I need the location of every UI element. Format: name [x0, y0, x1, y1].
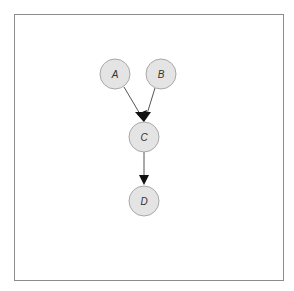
node-c-label: C — [140, 132, 148, 143]
edge-b-to-c — [147, 88, 155, 114]
node-a[interactable]: A — [100, 59, 130, 89]
graph-canvas: A B C D — [0, 0, 294, 291]
arrowhead-into-d-icon — [139, 175, 149, 185]
node-b[interactable]: B — [146, 59, 176, 89]
node-d-label: D — [140, 196, 147, 207]
node-d[interactable]: D — [129, 186, 159, 216]
edge-a-to-c — [124, 87, 140, 114]
node-b-label: B — [158, 69, 165, 80]
node-c[interactable]: C — [129, 122, 159, 152]
edge-c-to-d — [139, 152, 149, 185]
node-a-label: A — [111, 69, 119, 80]
